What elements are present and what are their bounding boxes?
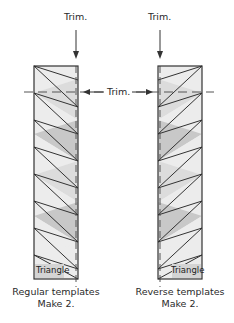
trim-label-top-left: Trim.: [64, 11, 87, 22]
caption-reverse: Reverse templates Make 2.: [130, 286, 230, 309]
caption-regular-line1: Regular templates: [6, 286, 106, 298]
caption-regular-line2: Make 2.: [6, 298, 106, 310]
regular-template-strip: [34, 30, 79, 287]
trim-label-middle: Trim.: [106, 86, 131, 97]
caption-reverse-line2: Make 2.: [130, 298, 230, 310]
trim-label-top-right: Trim.: [148, 11, 171, 22]
caption-regular: Regular templates Make 2.: [6, 286, 106, 309]
caption-reverse-line1: Reverse templates: [130, 286, 230, 298]
triangle-label-reverse: Triangle: [171, 265, 204, 275]
triangle-label-regular: Triangle: [36, 265, 69, 275]
reverse-template-strip: [157, 30, 202, 287]
